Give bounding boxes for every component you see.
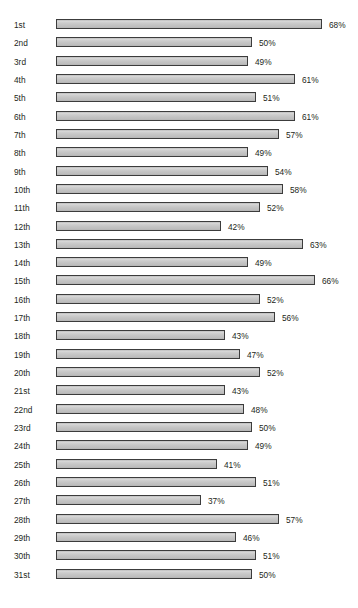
bar-category-label: 12th bbox=[14, 218, 50, 236]
bar-category-label: 24th bbox=[14, 437, 50, 455]
bar-value-label: 63% bbox=[310, 236, 327, 254]
bar-track: 37% bbox=[56, 492, 346, 510]
bar-category-label: 23rd bbox=[14, 419, 50, 437]
bar-row: 9th54% bbox=[0, 163, 358, 181]
bar-track: 52% bbox=[56, 364, 346, 382]
bar-row: 30th51% bbox=[0, 547, 358, 565]
bar-category-label: 7th bbox=[14, 126, 50, 144]
bar bbox=[56, 550, 256, 560]
bar bbox=[56, 312, 275, 322]
bar-category-label: 2nd bbox=[14, 34, 50, 52]
bar-value-label: 51% bbox=[263, 474, 280, 492]
bar-row: 7th57% bbox=[0, 126, 358, 144]
bar bbox=[56, 111, 295, 121]
bar bbox=[56, 221, 221, 231]
bar-row: 11th52% bbox=[0, 199, 358, 217]
bar-value-label: 54% bbox=[275, 163, 292, 181]
bar bbox=[56, 422, 252, 432]
bar-track: 47% bbox=[56, 346, 346, 364]
bar-track: 68% bbox=[56, 16, 346, 34]
bar-value-label: 50% bbox=[259, 419, 276, 437]
bar-value-label: 43% bbox=[232, 327, 249, 345]
bar-category-label: 18th bbox=[14, 327, 50, 345]
bar-category-label: 22nd bbox=[14, 401, 50, 419]
bar bbox=[56, 495, 201, 505]
bar-category-label: 20th bbox=[14, 364, 50, 382]
bar bbox=[56, 440, 248, 450]
bar bbox=[56, 257, 248, 267]
bar-category-label: 26th bbox=[14, 474, 50, 492]
bar-row: 5th51% bbox=[0, 89, 358, 107]
bar-track: 56% bbox=[56, 309, 346, 327]
bar bbox=[56, 532, 236, 542]
bar-category-label: 15th bbox=[14, 272, 50, 290]
bar-value-label: 49% bbox=[255, 144, 272, 162]
bar-category-label: 13th bbox=[14, 236, 50, 254]
bar-category-label: 3rd bbox=[14, 53, 50, 71]
bar-value-label: 51% bbox=[263, 547, 280, 565]
bar-category-label: 9th bbox=[14, 163, 50, 181]
bar-category-label: 11th bbox=[14, 199, 50, 217]
bar-category-label: 27th bbox=[14, 492, 50, 510]
bar-value-label: 50% bbox=[259, 566, 276, 584]
bar-category-label: 31st bbox=[14, 566, 50, 584]
bar bbox=[56, 294, 260, 304]
bar-value-label: 61% bbox=[302, 108, 319, 126]
bar-value-label: 37% bbox=[208, 492, 225, 510]
bar bbox=[56, 459, 217, 469]
bar-chart: 1st68%2nd50%3rd49%4th61%5th51%6th61%7th5… bbox=[0, 0, 358, 608]
bar-track: 57% bbox=[56, 511, 346, 529]
bar-category-label: 29th bbox=[14, 529, 50, 547]
bar bbox=[56, 275, 315, 285]
bar-category-label: 1st bbox=[14, 16, 50, 34]
bar-row: 8th49% bbox=[0, 144, 358, 162]
bar-row: 24th49% bbox=[0, 437, 358, 455]
bar-row: 26th51% bbox=[0, 474, 358, 492]
bar-row: 31st50% bbox=[0, 566, 358, 584]
bar-category-label: 4th bbox=[14, 71, 50, 89]
bar-value-label: 49% bbox=[255, 254, 272, 272]
bar-value-label: 46% bbox=[243, 529, 260, 547]
bar-value-label: 51% bbox=[263, 89, 280, 107]
bar-track: 48% bbox=[56, 401, 346, 419]
bar-value-label: 50% bbox=[259, 34, 276, 52]
bar bbox=[56, 19, 322, 29]
bar bbox=[56, 239, 303, 249]
bar-row: 23rd50% bbox=[0, 419, 358, 437]
bar bbox=[56, 129, 279, 139]
bar-value-label: 42% bbox=[228, 218, 245, 236]
bar-category-label: 25th bbox=[14, 456, 50, 474]
bar-row: 27th37% bbox=[0, 492, 358, 510]
bar-category-label: 19th bbox=[14, 346, 50, 364]
bar-row: 17th56% bbox=[0, 309, 358, 327]
bar-track: 46% bbox=[56, 529, 346, 547]
bar-value-label: 49% bbox=[255, 53, 272, 71]
bar-value-label: 66% bbox=[322, 272, 339, 290]
bar bbox=[56, 92, 256, 102]
bar-track: 51% bbox=[56, 474, 346, 492]
bar-track: 58% bbox=[56, 181, 346, 199]
bar-category-label: 6th bbox=[14, 108, 50, 126]
bar-track: 49% bbox=[56, 254, 346, 272]
bar-row: 22nd48% bbox=[0, 401, 358, 419]
bar bbox=[56, 202, 260, 212]
bar-value-label: 61% bbox=[302, 71, 319, 89]
bar-track: 52% bbox=[56, 199, 346, 217]
bar-track: 51% bbox=[56, 89, 346, 107]
bar-category-label: 21st bbox=[14, 382, 50, 400]
chart-title bbox=[14, 0, 344, 3]
bar-value-label: 41% bbox=[224, 456, 241, 474]
bar-track: 61% bbox=[56, 108, 346, 126]
bar bbox=[56, 166, 268, 176]
bar-track: 49% bbox=[56, 437, 346, 455]
bar-category-label: 28th bbox=[14, 511, 50, 529]
bar-value-label: 52% bbox=[267, 291, 284, 309]
bar-track: 51% bbox=[56, 547, 346, 565]
bar-track: 49% bbox=[56, 144, 346, 162]
bar-row: 4th61% bbox=[0, 71, 358, 89]
bar-track: 43% bbox=[56, 382, 346, 400]
bar bbox=[56, 147, 248, 157]
bar-row: 20th52% bbox=[0, 364, 358, 382]
bar bbox=[56, 349, 240, 359]
bar-row: 2nd50% bbox=[0, 34, 358, 52]
